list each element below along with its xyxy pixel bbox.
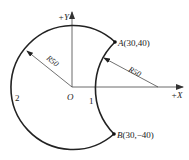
point-b-label: B(30,−40) [117, 130, 154, 140]
arc-2-label: 2 [15, 93, 20, 103]
r50-inner-label: R50 [126, 64, 142, 78]
point-a-marker [113, 40, 117, 44]
origin-label: O [67, 92, 74, 102]
x-axis-label: +X [171, 90, 183, 100]
y-axis-label: +Y [58, 12, 70, 22]
arc-diagram: +Y +X O A(30,40) B(30,−40) 1 2 R50 R50 [0, 0, 189, 160]
arc-1-label: 1 [89, 96, 94, 106]
arc-2 [11, 26, 115, 150]
point-a-label: A(30,40) [117, 38, 150, 48]
arc-1 [95, 42, 115, 134]
point-b-marker [112, 132, 116, 136]
